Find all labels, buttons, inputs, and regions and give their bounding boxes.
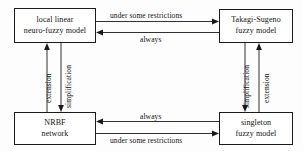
edge-label-right-upward: extension xyxy=(262,73,271,103)
node-local-linear-neuro-fuzzy-model[interactable]: local linear neuro-fuzzy model xyxy=(14,8,96,43)
edge-label-top-leftward: always xyxy=(140,35,161,44)
node-label-line2: network xyxy=(42,129,69,140)
edge-label-left-downward: simplification xyxy=(64,65,73,108)
fuzzy-model-relations-diagram: local linear neuro-fuzzy model Takagi-Su… xyxy=(0,0,303,151)
node-label-line1: singleton xyxy=(241,118,271,129)
node-takagi-sugeno-fuzzy-model[interactable]: Takagi-Sugeno fuzzy model xyxy=(219,9,293,43)
edge-label-bottom-leftward: always xyxy=(140,112,161,121)
node-label-line2: neuro-fuzzy model xyxy=(24,26,86,37)
edge-label-left-upward: extension xyxy=(44,73,53,103)
node-label-line2: fuzzy model xyxy=(236,129,277,140)
node-nrbf-network[interactable]: NRBF network xyxy=(14,112,96,145)
edge-label-bottom-rightward: under some restrictions xyxy=(110,136,182,145)
node-label-line1: local linear xyxy=(37,15,74,26)
node-label-line1: NRBF xyxy=(44,118,65,129)
node-label-line1: Takagi-Sugeno xyxy=(231,15,281,26)
edge-label-top-rightward: under some restrictions xyxy=(110,11,182,20)
node-singleton-fuzzy-model[interactable]: singleton fuzzy model xyxy=(219,112,293,145)
node-label-line2: fuzzy model xyxy=(236,26,277,37)
edge-label-right-downward: simplification xyxy=(242,65,251,108)
